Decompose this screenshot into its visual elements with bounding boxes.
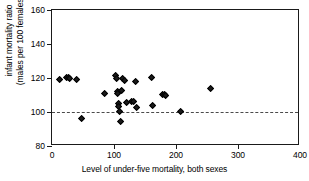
data-point <box>162 92 169 99</box>
x-axis-label: Level of under-five mortality, both sexe… <box>0 164 309 174</box>
y-tick-mark <box>47 78 52 79</box>
y-tick-mark <box>47 10 52 11</box>
y-tick-mark <box>47 146 52 147</box>
scatter-chart-figure: infant mortality ratio (males per 100 fe… <box>0 0 309 181</box>
y-axis-label-line2: (males per 100 females) <box>14 0 25 101</box>
x-tick-mark <box>114 144 115 149</box>
data-point <box>149 102 156 109</box>
data-point <box>132 78 139 85</box>
data-point <box>148 73 155 80</box>
y-axis-label-line1: infant mortality ratio <box>4 0 15 101</box>
data-point <box>117 118 124 125</box>
y-tick-mark <box>47 44 52 45</box>
y-tick-label: 100 <box>5 107 45 117</box>
data-point <box>116 107 123 114</box>
data-point <box>206 85 213 92</box>
y-axis-label: infant mortality ratio (males per 100 fe… <box>4 0 25 101</box>
y-tick-label: 140 <box>5 39 45 49</box>
x-tick-mark <box>176 144 177 149</box>
plot-area: 80100120140160 0100200300400 <box>51 9 299 145</box>
y-tick-label: 160 <box>5 5 45 15</box>
data-point <box>133 104 140 111</box>
data-point <box>73 76 80 83</box>
data-point <box>101 90 108 97</box>
data-point <box>177 107 184 114</box>
data-point <box>121 77 128 84</box>
x-tick-label: 0 <box>32 150 72 160</box>
x-tick-mark <box>238 144 239 149</box>
data-point <box>77 115 84 122</box>
reference-line <box>52 112 298 113</box>
x-tick-label: 200 <box>156 150 196 160</box>
y-tick-label: 120 <box>5 73 45 83</box>
x-tick-label: 100 <box>94 150 134 160</box>
x-tick-label: 300 <box>218 150 258 160</box>
x-tick-label: 400 <box>280 150 309 160</box>
